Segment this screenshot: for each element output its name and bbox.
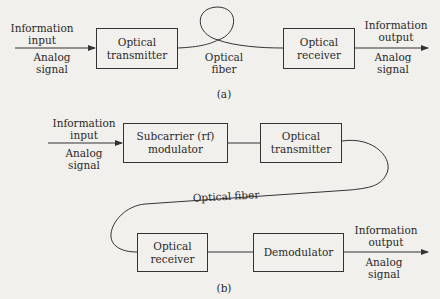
optical-fiber-label-a: Opticalfiber — [205, 51, 243, 75]
fiber-loop-a — [178, 7, 283, 48]
caption-a: (a) — [217, 88, 231, 100]
analog-signal-label-b: Analogsignal — [65, 147, 102, 171]
subcarrier-modulator-box: Subcarrier (rf)modulator — [123, 123, 228, 163]
optical-transmitter-box-b: Opticaltransmitter — [260, 123, 342, 163]
analog-signal-label-a: Analogsignal — [33, 51, 70, 75]
analog-signal-output-b: Analogsignal — [365, 256, 402, 280]
output-label-b: Informationoutput — [354, 224, 417, 248]
output-label-a: Informationoutput — [364, 19, 427, 43]
optical-transmitter-box-a: Opticaltransmitter — [96, 28, 178, 69]
input-label-a: Informationinput — [10, 22, 73, 46]
fiber-link-diagram: Informationinput Analogsignal Opticaltra… — [0, 0, 440, 299]
optical-receiver-box-b: Opticalreceiver — [137, 233, 208, 272]
caption-b: (b) — [217, 282, 232, 294]
optical-receiver-box-a: Opticalreceiver — [283, 28, 355, 69]
analog-signal-output-a: Analogsignal — [374, 51, 411, 75]
input-label-b: Informationinput — [52, 117, 115, 141]
demodulator-box: Demodulator — [253, 233, 344, 272]
